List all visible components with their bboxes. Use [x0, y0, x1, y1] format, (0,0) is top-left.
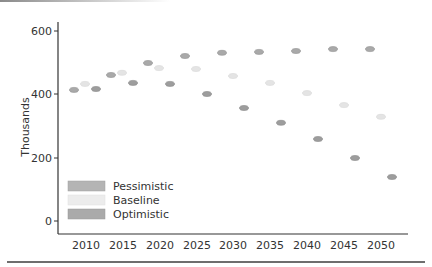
data-point-pessimistic: [329, 47, 338, 52]
legend-swatch-baseline: [68, 195, 105, 205]
bottom-rule: [7, 261, 425, 263]
data-point-optimistic: [314, 137, 323, 142]
data-markers: [70, 47, 397, 180]
x-tick-label: 2030: [219, 239, 247, 252]
data-point-optimistic: [240, 106, 249, 111]
x-tick-label: 2050: [367, 239, 395, 252]
x-tick-labels: 2010 2015 2020 2025 2030 2035 2040 2045 …: [72, 239, 395, 252]
data-point-pessimistic: [218, 50, 227, 55]
y-tick-label: 600: [31, 25, 52, 38]
data-point-pessimistic: [70, 87, 79, 92]
x-tick-label: 2010: [72, 239, 100, 252]
legend-label-optimistic: Optimistic: [113, 208, 169, 221]
data-point-pessimistic: [366, 47, 375, 52]
x-tick-label: 2040: [293, 239, 321, 252]
data-point-baseline: [155, 66, 164, 71]
data-point-pessimistic: [144, 61, 153, 66]
data-point-pessimistic: [255, 49, 264, 54]
data-point-optimistic: [92, 87, 101, 92]
data-point-baseline: [229, 74, 238, 79]
legend: Pessimistic Baseline Optimistic: [68, 180, 173, 221]
data-point-optimistic: [166, 81, 175, 86]
data-point-pessimistic: [292, 49, 301, 54]
x-tick-label: 2025: [183, 239, 211, 252]
x-tick-label: 2045: [330, 239, 358, 252]
data-point-baseline: [377, 114, 386, 119]
data-point-optimistic: [203, 92, 212, 97]
data-point-baseline: [340, 103, 349, 108]
y-tick-label: 400: [31, 88, 52, 101]
data-point-pessimistic: [181, 54, 190, 59]
data-point-baseline: [192, 67, 201, 72]
data-point-baseline: [81, 81, 90, 86]
legend-label-baseline: Baseline: [113, 194, 160, 207]
data-point-optimistic: [388, 175, 397, 180]
data-point-optimistic: [351, 156, 360, 161]
data-point-baseline: [303, 91, 312, 96]
y-tick-label: 200: [31, 152, 52, 165]
chart: 600 400 200 0 Thousands 2010 2015 2020 2…: [0, 0, 432, 267]
data-point-baseline: [266, 80, 275, 85]
data-point-pessimistic: [107, 73, 116, 78]
data-point-optimistic: [277, 120, 286, 125]
x-tick-label: 2020: [146, 239, 174, 252]
y-ticks: 600 400 200 0: [31, 25, 58, 228]
x-tick-label: 2035: [256, 239, 284, 252]
x-tick-label: 2015: [109, 239, 137, 252]
legend-label-pessimistic: Pessimistic: [113, 180, 173, 193]
y-tick-label: 0: [45, 215, 52, 228]
legend-swatch-pessimistic: [68, 181, 105, 191]
data-point-optimistic: [129, 80, 138, 85]
y-axis-title: Thousands: [19, 97, 32, 158]
legend-swatch-optimistic: [68, 209, 105, 219]
data-point-baseline: [118, 70, 127, 75]
